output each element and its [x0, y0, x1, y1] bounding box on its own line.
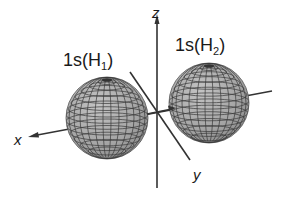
sphere-h1: [66, 77, 148, 159]
y-axis-label: y: [192, 166, 202, 183]
z-axis-label: z: [151, 4, 160, 21]
x-axis-front: [147, 109, 172, 114]
z-axis: [155, 14, 160, 188]
x-axis-label: x: [13, 131, 22, 148]
orbital-label-h2: 1s(H2): [175, 35, 225, 57]
orbital-label-h1: 1s(H1): [63, 50, 113, 72]
sphere-h2: [169, 63, 249, 143]
orbital-diagram: z x y 1s(H1) 1s(H2): [0, 0, 287, 197]
